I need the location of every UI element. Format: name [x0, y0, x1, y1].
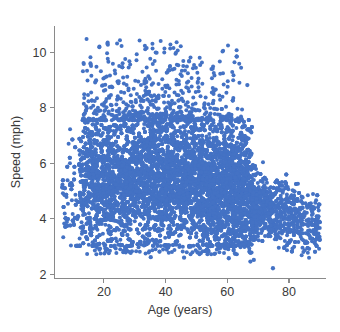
x-axis-title: Age (years) [148, 303, 213, 317]
scatter-plot-figure: 246810 20406080 Age (years) Speed (mph) [0, 0, 340, 332]
x-tick-label: 60 [220, 285, 234, 299]
y-tick-label: 8 [40, 101, 47, 115]
y-tick-label: 10 [33, 46, 47, 60]
x-tick-label: 20 [97, 285, 111, 299]
y-axis-title: Speed (mph) [9, 116, 23, 188]
y-tick-label: 4 [40, 212, 47, 226]
y-tick-label: 6 [40, 157, 47, 171]
x-tick-label: 40 [159, 285, 173, 299]
x-tick-label: 80 [282, 285, 296, 299]
y-tick-label: 2 [40, 268, 47, 282]
plot-canvas: 246810 20406080 Age (years) Speed (mph) [0, 0, 340, 332]
